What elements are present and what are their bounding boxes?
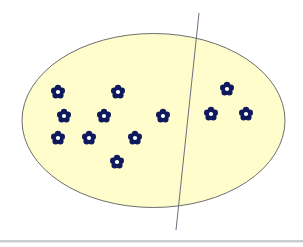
flower-center <box>116 90 120 94</box>
flower-center <box>115 160 119 164</box>
flower-center <box>56 136 60 140</box>
flower-center <box>87 136 91 140</box>
flower-center <box>225 87 229 91</box>
bottom-divider-shadow <box>0 242 303 243</box>
flower-center <box>62 114 66 118</box>
flower-center <box>209 112 213 116</box>
set-diagram <box>0 0 303 247</box>
flower-center <box>244 112 248 116</box>
flower-center <box>102 114 106 118</box>
flower-center <box>133 136 137 140</box>
flower-center <box>56 90 60 94</box>
flower-center <box>161 114 165 118</box>
